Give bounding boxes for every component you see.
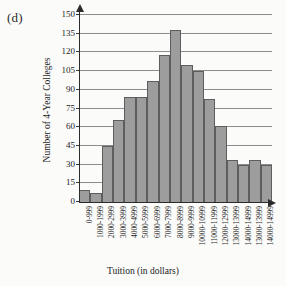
x-tick: 9000-9999 [181, 204, 192, 260]
x-tick: 11000-11999 [204, 204, 215, 260]
bar [204, 99, 215, 202]
y-tick-label: 30 [66, 159, 75, 169]
bar [170, 30, 181, 202]
x-tick-label: 14000-14999 [266, 206, 275, 245]
bar [227, 160, 238, 202]
y-tick-label: 45 [66, 140, 75, 150]
bar [238, 165, 249, 202]
x-tick: 0-999 [79, 204, 90, 260]
x-tick: 8000-8999 [170, 204, 181, 260]
y-tick-label: 135 [62, 28, 76, 38]
y-tick-label: 150 [62, 9, 76, 19]
bar [193, 71, 204, 202]
bar [147, 81, 158, 202]
bar [215, 126, 226, 202]
x-axis-tick-labels: 0-9991000-19992000-29993000-39994000-499… [79, 204, 272, 260]
y-tick-label: 60 [66, 121, 75, 131]
y-tick-label: 105 [62, 65, 76, 75]
y-tick-label: 120 [62, 46, 76, 56]
histogram-figure: (d) Number of 4-Year Colleges 0153045607… [0, 0, 286, 286]
panel-label: (d) [7, 10, 23, 26]
bar [261, 165, 272, 202]
y-axis-arrow-icon [76, 4, 84, 12]
x-tick: 14000-14999 [261, 204, 272, 260]
bar [181, 65, 192, 202]
bar [102, 146, 113, 202]
x-tick: 10000-10999 [193, 204, 204, 260]
bar [113, 120, 124, 202]
bar [159, 55, 170, 202]
bar-series [79, 15, 272, 202]
x-tick: 1000-1999 [90, 204, 101, 260]
bar [90, 193, 101, 202]
x-tick: 13000-13999 [249, 204, 260, 260]
bar [79, 190, 90, 202]
x-tick: 6000-6999 [147, 204, 158, 260]
x-tick: 4000-4999 [124, 204, 135, 260]
y-tick-label: 90 [66, 84, 75, 94]
y-tick-label: 75 [66, 103, 75, 113]
x-tick: 3000-3999 [113, 204, 124, 260]
y-tick-label: 15 [66, 177, 75, 187]
x-tick: 5000-5999 [136, 204, 147, 260]
x-tick: 12000-12999 [215, 204, 226, 260]
bar [136, 97, 147, 202]
x-tick: 7000-7999 [159, 204, 170, 260]
x-tick: 14000-14999 [238, 204, 249, 260]
bar [124, 97, 135, 202]
x-tick: 2000-2999 [102, 204, 113, 260]
plot-area: 0153045607590105120135150 [79, 15, 272, 202]
x-tick: 13000-13999 [227, 204, 238, 260]
y-axis-title: Number of 4-Year Colleges [42, 25, 52, 195]
y-axis-line [79, 11, 80, 203]
y-tick-label: 0 [71, 196, 76, 206]
x-axis-title: Tuition (in dollars) [0, 266, 286, 276]
bar [249, 160, 260, 202]
